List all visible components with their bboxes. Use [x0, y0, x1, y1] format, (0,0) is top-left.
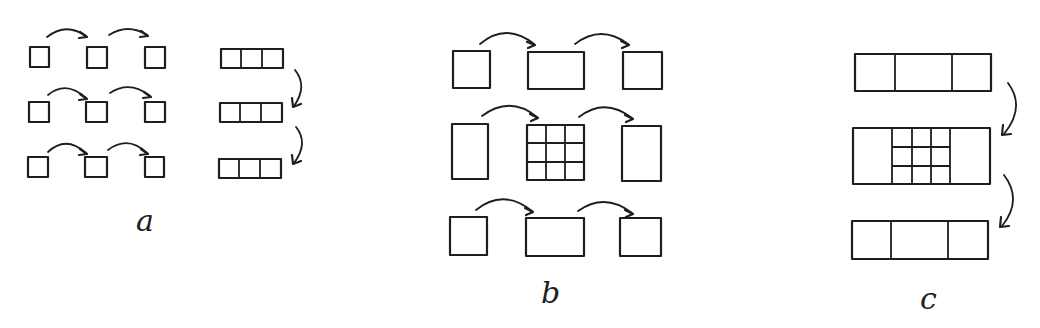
panel-a-row-3	[28, 143, 164, 177]
panel-b-row-1	[453, 33, 662, 89]
diagram-canvas	[0, 0, 1040, 328]
tall-block	[452, 124, 488, 179]
strip-block	[852, 221, 988, 259]
right-arrow-icon	[578, 202, 632, 213]
square-block	[145, 47, 165, 68]
square-block	[85, 157, 107, 177]
down-arrow-icon	[1002, 175, 1013, 226]
strip-block-with-grid	[853, 128, 990, 184]
panel-a	[28, 29, 302, 178]
arrowhead-icon	[525, 208, 533, 215]
grid-block-3x3	[527, 125, 584, 180]
square-block	[453, 51, 490, 88]
arrowhead-icon	[140, 149, 148, 155]
tall-block	[622, 126, 661, 181]
right-arrow-icon	[480, 33, 534, 44]
arrowhead-icon	[79, 32, 87, 38]
arrowhead-icon	[530, 114, 538, 121]
right-arrow-icon	[579, 107, 632, 118]
right-arrow-icon	[482, 106, 537, 117]
arrowhead-icon	[621, 41, 629, 48]
panel-a-row-2	[29, 87, 165, 122]
strip-block	[220, 103, 282, 122]
arrowhead-icon	[140, 31, 148, 37]
down-arrow-icon	[294, 127, 302, 163]
strip-block	[855, 54, 991, 91]
strip-block	[219, 159, 281, 178]
panel-b	[450, 33, 662, 256]
arrowhead-icon	[143, 92, 151, 98]
strip-block	[221, 49, 283, 68]
panel-b-label: b	[541, 278, 560, 308]
square-block	[30, 47, 49, 67]
down-arrow-icon	[294, 70, 301, 106]
panel-c	[852, 54, 1016, 259]
panel-a-row-1	[30, 29, 165, 68]
arrowhead-icon	[625, 115, 633, 122]
down-arrow-icon	[1004, 83, 1016, 134]
square-block	[450, 217, 487, 255]
square-block	[623, 52, 662, 89]
square-block	[29, 102, 49, 122]
arrowhead-icon	[79, 94, 87, 100]
wide-block	[528, 52, 584, 89]
wide-block	[526, 218, 584, 256]
arrowhead-icon	[79, 149, 87, 155]
square-block	[28, 157, 48, 177]
panel-a-strips	[219, 49, 302, 178]
square-block	[620, 218, 661, 256]
panel-a-label: a	[136, 206, 154, 236]
square-block	[145, 102, 165, 122]
arrowhead-icon	[625, 210, 633, 217]
right-arrow-icon	[575, 34, 628, 44]
panel-b-row-3	[450, 199, 661, 256]
panel-b-row-2	[452, 106, 661, 181]
square-block	[145, 157, 164, 177]
right-arrow-icon	[476, 199, 532, 211]
panel-c-label: c	[920, 284, 937, 314]
square-block	[86, 102, 107, 122]
square-block	[87, 47, 107, 68]
